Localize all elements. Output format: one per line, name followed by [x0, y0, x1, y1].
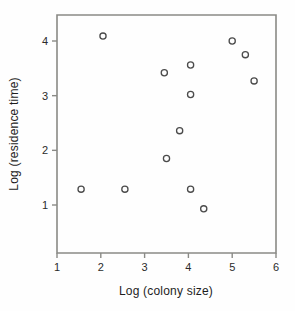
x-tick-label: 5: [229, 261, 235, 273]
plot-canvas: 123456 1234 Log (colony size) Log (resid…: [0, 0, 295, 311]
y-tick-label: 2: [42, 144, 48, 156]
x-tick-label: 6: [273, 261, 279, 273]
x-tick-label: 2: [98, 261, 104, 273]
scatter-plot-figure: 123456 1234 Log (colony size) Log (resid…: [0, 0, 295, 311]
x-tick-label: 3: [142, 261, 148, 273]
y-tick-label: 4: [42, 35, 48, 47]
y-tick-label: 1: [42, 199, 48, 211]
y-axis-title: Log (residence time): [7, 77, 21, 190]
x-tick-label: 1: [54, 261, 60, 273]
x-axis-title: Log (colony size): [119, 284, 213, 298]
x-tick-label: 4: [185, 261, 191, 273]
y-tick-label: 3: [42, 90, 48, 102]
